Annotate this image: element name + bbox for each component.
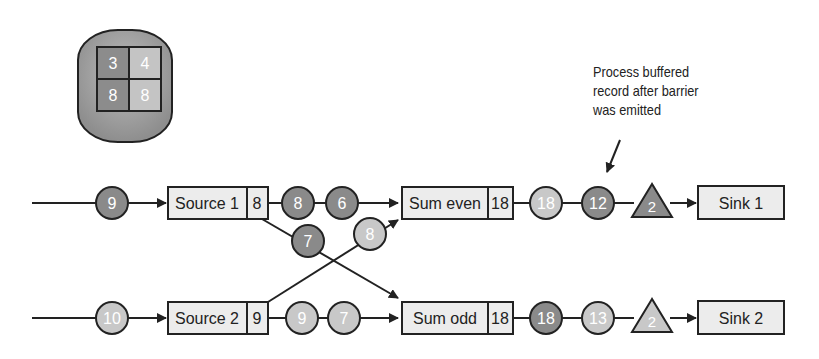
record-value: 9 bbox=[298, 310, 307, 327]
record-value: 18 bbox=[537, 310, 555, 327]
sum-even-value: 18 bbox=[491, 195, 509, 212]
state-store: 3 4 8 8 bbox=[78, 30, 172, 142]
state-value: 4 bbox=[141, 55, 150, 72]
annotation-line: Process buffered bbox=[593, 62, 746, 81]
state-value: 8 bbox=[109, 87, 118, 104]
sum-odd-value: 18 bbox=[491, 310, 509, 327]
source-2-label: Source 2 bbox=[175, 310, 239, 327]
record-value: 10 bbox=[103, 310, 121, 327]
sink-1-label: Sink 1 bbox=[719, 195, 764, 212]
record-value: 18 bbox=[537, 195, 555, 212]
annotation-line: record after barrier bbox=[593, 81, 746, 100]
annotation-text: Process buffered record after barrier wa… bbox=[593, 62, 746, 119]
source-1-label: Source 1 bbox=[175, 195, 239, 212]
sum-odd-label: Sum odd bbox=[413, 310, 477, 327]
source-2-value: 9 bbox=[253, 310, 262, 327]
source-1-value: 8 bbox=[253, 195, 262, 212]
annotation-line: was emitted bbox=[593, 100, 746, 119]
record-value: 13 bbox=[589, 310, 607, 327]
sink-2-label: Sink 2 bbox=[719, 310, 764, 327]
barrier-value: 2 bbox=[648, 198, 656, 215]
record-value: 8 bbox=[294, 195, 303, 212]
annotation-arrow bbox=[607, 140, 620, 172]
record-value: 7 bbox=[340, 310, 349, 327]
record-value: 12 bbox=[589, 195, 607, 212]
record-value: 8 bbox=[366, 226, 375, 243]
record-value: 6 bbox=[338, 195, 347, 212]
sum-even-label: Sum even bbox=[409, 195, 481, 212]
state-value: 8 bbox=[141, 87, 150, 104]
record-value: 9 bbox=[108, 195, 117, 212]
barrier-value: 2 bbox=[648, 313, 656, 330]
state-value: 3 bbox=[109, 55, 118, 72]
record-value: 7 bbox=[304, 233, 313, 250]
